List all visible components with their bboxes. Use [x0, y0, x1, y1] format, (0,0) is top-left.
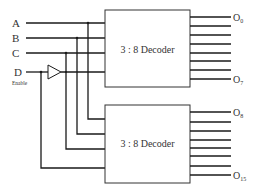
junction-dot-d	[40, 71, 43, 74]
output-label-o8: O8	[233, 107, 243, 119]
label-d: D	[14, 66, 22, 78]
crossing-dot	[65, 71, 67, 73]
junction-dot-b	[76, 37, 79, 40]
label-c: C	[12, 47, 19, 59]
label-a: A	[12, 17, 20, 29]
output-label-o7: O7	[233, 74, 243, 86]
output-label-o15: O15	[233, 170, 246, 182]
buffer-triangle-icon	[48, 65, 61, 79]
top-decoder-label: 3 : 8 Decoder	[120, 44, 175, 55]
label-enable: Enable	[12, 80, 28, 86]
bottom-decoder-label: 3 : 8 Decoder	[120, 138, 175, 149]
bottom-decoder-outputs	[190, 112, 231, 175]
decoder-circuit-diagram: A B C D Enable 3 : 8 Decoder O0 O7 3 : 8…	[0, 0, 264, 190]
junction-dot-c	[65, 52, 68, 55]
label-b: B	[12, 32, 19, 44]
output-label-o0: O0	[233, 12, 243, 24]
junction-dot-a	[87, 22, 90, 25]
top-decoder-outputs	[190, 17, 231, 79]
tap-d-bottom-enable	[41, 72, 105, 168]
